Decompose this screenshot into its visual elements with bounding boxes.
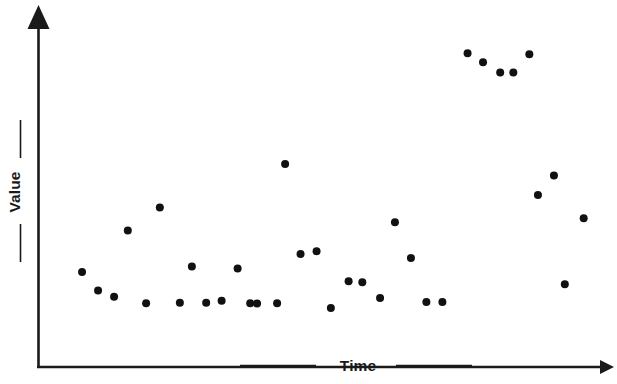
- data-point: [327, 304, 335, 312]
- chart-canvas: Value Time: [0, 0, 617, 384]
- data-point: [407, 254, 415, 262]
- data-point: [234, 265, 242, 273]
- value-axis-label: Value: [6, 171, 23, 212]
- data-point: [525, 50, 533, 58]
- data-point: [124, 227, 132, 235]
- data-point: [94, 287, 102, 295]
- data-point: [496, 68, 504, 76]
- data-point: [358, 278, 366, 286]
- data-point: [580, 214, 588, 222]
- data-point: [438, 298, 446, 306]
- data-point: [534, 191, 542, 199]
- data-point: [297, 250, 305, 258]
- data-point: [391, 218, 399, 226]
- time-axis-label: Time: [340, 357, 377, 374]
- data-point: [345, 277, 353, 285]
- data-point: [110, 293, 118, 301]
- data-point: [253, 299, 261, 307]
- data-point: [246, 299, 254, 307]
- data-point: [78, 268, 86, 276]
- data-point: [176, 299, 184, 307]
- data-point: [202, 299, 210, 307]
- data-point: [281, 160, 289, 168]
- data-point: [218, 297, 226, 305]
- data-point: [479, 58, 487, 66]
- data-point: [188, 262, 196, 270]
- data-point: [142, 299, 150, 307]
- data-point: [273, 299, 281, 307]
- data-point: [561, 280, 569, 288]
- data-point: [156, 204, 164, 212]
- data-point: [313, 247, 321, 255]
- plot-background: [0, 0, 617, 384]
- data-point: [550, 171, 558, 179]
- scatter-plot-figure: Value Time: [0, 0, 617, 384]
- data-point: [376, 294, 384, 302]
- data-point: [422, 298, 430, 306]
- data-point: [509, 68, 517, 76]
- data-point: [464, 49, 472, 57]
